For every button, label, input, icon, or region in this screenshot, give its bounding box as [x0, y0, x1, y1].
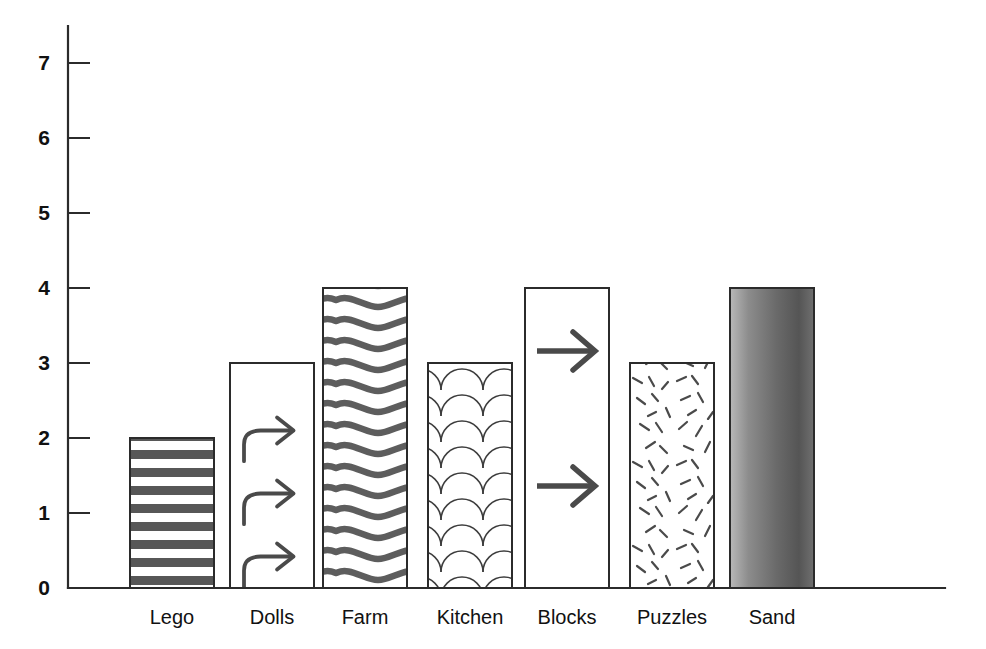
chart-canvas: 01234567 LegoDollsFarmKitchenBlocksPuzzl… — [0, 0, 986, 649]
x-category-label-kitchen: Kitchen — [437, 606, 504, 628]
bars-group — [130, 288, 814, 588]
bar-rect[interactable] — [730, 288, 814, 588]
bar-blocks[interactable] — [525, 288, 609, 588]
y-tick-label-0: 0 — [38, 576, 50, 599]
y-axis: 01234567 — [38, 26, 90, 599]
bar-rect[interactable] — [630, 363, 714, 588]
x-category-label-farm: Farm — [342, 606, 389, 628]
y-tick-label-5: 5 — [38, 201, 50, 224]
y-tick-label-7: 7 — [38, 51, 50, 74]
bar-dolls[interactable] — [230, 363, 314, 588]
x-axis-category-labels: LegoDollsFarmKitchenBlocksPuzzlesSand — [150, 606, 796, 628]
x-category-label-sand: Sand — [749, 606, 796, 628]
y-axis-ticks — [68, 63, 90, 513]
bar-rect[interactable] — [323, 288, 407, 588]
x-axis: LegoDollsFarmKitchenBlocksPuzzlesSand — [68, 588, 945, 628]
x-category-label-blocks: Blocks — [538, 606, 597, 628]
bar-rect[interactable] — [230, 363, 314, 588]
bar-sand[interactable] — [730, 288, 814, 588]
y-tick-label-3: 3 — [38, 351, 50, 374]
bar-rect[interactable] — [525, 288, 609, 588]
y-axis-tick-labels: 01234567 — [38, 51, 50, 599]
x-category-label-dolls: Dolls — [250, 606, 294, 628]
y-tick-label-6: 6 — [38, 126, 50, 149]
x-category-label-puzzles: Puzzles — [637, 606, 707, 628]
y-tick-label-2: 2 — [38, 426, 50, 449]
bar-rect[interactable] — [428, 363, 512, 588]
bar-farm[interactable] — [323, 288, 407, 588]
y-tick-label-4: 4 — [38, 276, 50, 299]
bar-puzzles[interactable] — [630, 363, 714, 588]
bar-rect[interactable] — [130, 438, 214, 588]
y-tick-label-1: 1 — [38, 501, 50, 524]
bar-chart-figure: 01234567 LegoDollsFarmKitchenBlocksPuzzl… — [0, 0, 986, 649]
x-category-label-lego: Lego — [150, 606, 195, 628]
bar-lego[interactable] — [130, 438, 214, 588]
bar-kitchen[interactable] — [428, 363, 512, 588]
